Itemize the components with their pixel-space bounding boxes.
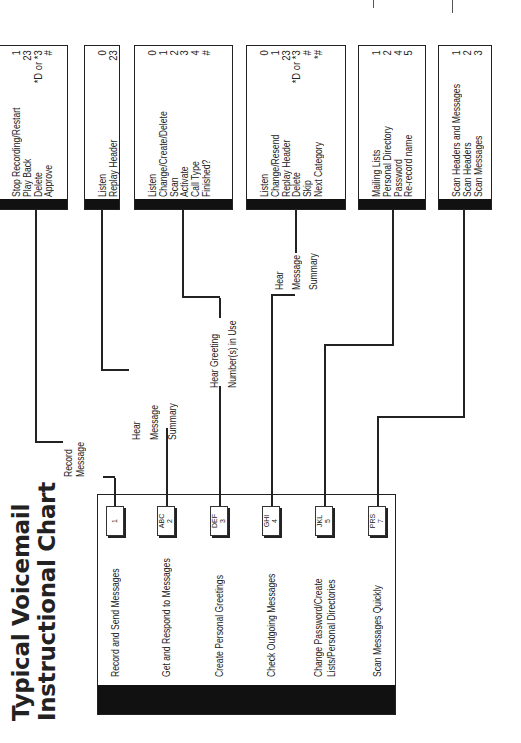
connector-line	[295, 210, 297, 253]
menu-item-change-password-line1: Change Password/Create	[312, 554, 324, 677]
connector-line	[271, 295, 295, 297]
option-row: Change/Create/Delete1	[158, 50, 169, 197]
options-password-box: Mailing Lists1 Personal Directory2 Passw…	[358, 45, 426, 210]
key-2-button[interactable]: ABC 2	[157, 506, 175, 536]
connector-line	[271, 296, 273, 506]
key-3-button[interactable]: DEF 3	[210, 506, 228, 536]
key-4-button[interactable]: GHI 4	[262, 506, 280, 536]
connector-line	[35, 210, 37, 443]
connector-line	[182, 210, 184, 298]
key-number: 3	[219, 507, 227, 535]
options-black-bar	[439, 199, 491, 209]
connector-line	[377, 418, 379, 506]
connector-label-get-line3: Summary	[166, 403, 178, 440]
options-record-box: Stop Recording/Restart1 Play Back23 Dele…	[0, 45, 68, 210]
menu-item-get-respond: Get and Respond to Messages	[160, 554, 172, 677]
voicemail-chart: Typical Voicemail Instructional Chart Re…	[0, 0, 521, 743]
connector-label-get-line2: Message	[148, 405, 160, 440]
connector-line	[377, 417, 465, 419]
connector-line	[219, 298, 221, 318]
key-number: 7	[377, 507, 385, 535]
connector-line	[324, 345, 393, 347]
key-letters: DEF	[211, 507, 219, 535]
connector-line	[182, 297, 220, 299]
options-scan-box: Scan Headers and Messages1 Scan Headers2…	[438, 45, 492, 210]
connector-label-outgoing-line1: Hear	[273, 271, 285, 290]
connector-label-greetings-line2: Number(s) in Use	[226, 321, 238, 388]
title-line-2: Instructional Chart	[34, 482, 60, 721]
chart-title: Typical Voicemail Instructional Chart	[8, 482, 60, 721]
options-black-bar	[135, 199, 232, 209]
option-row: Finished?#	[201, 50, 212, 197]
options-black-bar	[359, 199, 425, 209]
option-row: Scan Messages3	[473, 50, 484, 197]
option-row: Replay Header23	[108, 50, 119, 197]
menu-item-change-password-line2: Lists/Personal Directories	[325, 554, 337, 677]
connector-label-outgoing-line2: Message	[290, 255, 302, 290]
menu-item-create-greetings: Create Personal Greetings	[213, 554, 225, 677]
connector-line	[101, 370, 129, 372]
connector-line	[463, 210, 465, 418]
options-black-bar	[247, 199, 345, 209]
crop-mark	[373, 0, 374, 8]
key-5-button[interactable]: JKL 5	[315, 506, 333, 536]
key-1-button[interactable]: 1	[106, 506, 124, 536]
connector-label-record-line1: Record	[62, 449, 74, 477]
options-outgoing-box: Listen0 Change/Resend1 Replay Header23 D…	[246, 45, 346, 210]
options-get-box: Listen0 Replay Header23	[84, 45, 120, 210]
connector-line	[114, 494, 116, 506]
connector-line	[114, 478, 116, 494]
connector-line	[103, 477, 115, 479]
key-letters: ABC	[158, 507, 166, 535]
connector-line	[101, 210, 103, 371]
key-letters: GHI	[263, 507, 271, 535]
option-row: Delete*D or *3	[291, 50, 302, 197]
options-black-bar	[0, 199, 67, 209]
connector-line	[35, 442, 63, 444]
main-menu-box	[97, 494, 396, 715]
menu-item-record-send: Record and Send Messages	[109, 554, 121, 677]
key-letters: JKL	[316, 507, 324, 535]
connector-label-get-line1: Hear	[130, 421, 142, 440]
key-number: 5	[324, 507, 332, 535]
title-line-1: Typical Voicemail	[8, 482, 34, 721]
connector-line	[392, 210, 394, 346]
option-row: Next Category*#	[313, 50, 324, 197]
key-letters: PRS	[369, 507, 377, 535]
connector-line	[324, 346, 326, 506]
key-number: 2	[166, 507, 174, 535]
options-black-bar	[85, 199, 119, 209]
options-greetings-box: Listen0 Change/Create/Delete1 Scan2 Acti…	[134, 45, 233, 210]
menu-item-scan-quickly: Scan Messages Quickly	[371, 554, 383, 677]
key-number: 1	[111, 507, 119, 535]
option-row: Approve#	[43, 50, 54, 197]
connector-label-greetings-line1: Hear Greeting	[208, 334, 220, 388]
menu-item-check-outgoing: Check Outgoing Messages	[265, 554, 277, 677]
connector-label-record-line2: Message	[74, 442, 86, 477]
connector-line	[219, 386, 221, 506]
option-row: Re-record name5	[403, 50, 414, 197]
main-menu-black-bar	[98, 685, 395, 714]
connector-label-outgoing-line3: Summary	[307, 253, 319, 290]
key-7-button[interactable]: PRS 7	[368, 506, 386, 536]
key-number: 4	[271, 507, 279, 535]
crop-mark	[452, 0, 453, 13]
